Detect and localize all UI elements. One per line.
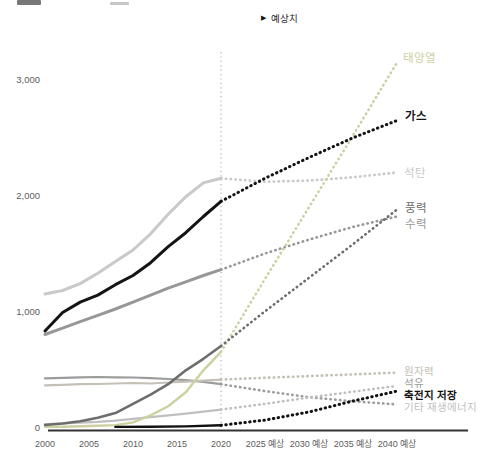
series-line-hydro-historical — [45, 270, 221, 335]
y-tick-label-2000: 2,000 — [16, 190, 40, 201]
series-label-other_renewables: 기타 재생에너지 — [404, 401, 477, 413]
forecast-annotation-label: 예상치 — [271, 11, 299, 25]
series-label-coal: 석탄 — [404, 167, 426, 179]
x-tick-label-2025: 2025 예상 — [246, 439, 285, 449]
series-label-nuclear: 원자력 — [404, 365, 434, 377]
x-tick-label-2020: 2020 — [211, 439, 231, 449]
x-tick-label-2040: 2040 예상 — [378, 439, 417, 449]
y-tick-label-1000: 1,000 — [16, 306, 40, 317]
energy-capacity-line-chart: 01,0002,0003,000200020052010201520202025… — [0, 0, 482, 464]
y-tick-label-0: 0 — [35, 422, 40, 433]
forecast-marker-icon: ▶ — [261, 14, 267, 22]
x-tick-label-2030: 2030 예상 — [290, 439, 329, 449]
series-line-solar-forecast — [221, 63, 397, 352]
chart-canvas: 01,0002,0003,000200020052010201520202025… — [0, 0, 482, 464]
x-tick-label-2010: 2010 — [123, 439, 143, 449]
x-tick-label-2035: 2035 예상 — [334, 439, 373, 449]
series-label-wind: 풍력 — [405, 202, 427, 214]
series-line-hydro-forecast — [221, 217, 397, 270]
x-tick-label-2005: 2005 — [79, 439, 99, 449]
series-line-battery-historical — [115, 425, 221, 427]
series-line-gas-forecast — [221, 121, 397, 202]
series-line-wind-forecast — [221, 210, 397, 347]
series-line-oil-forecast — [221, 384, 397, 404]
series-line-gas-historical — [45, 201, 221, 331]
series-label-oil: 석유 — [404, 377, 424, 389]
series-label-solar: 태양열 — [403, 52, 436, 64]
series-label-battery: 축전지 저장 — [404, 389, 457, 401]
x-tick-label-2000: 2000 — [35, 439, 55, 449]
x-tick-label-2015: 2015 — [167, 439, 187, 449]
series-line-coal-forecast — [221, 173, 397, 182]
series-label-hydro: 수력 — [405, 218, 427, 230]
forecast-annotation: ▶ 예상치 — [261, 11, 298, 25]
y-tick-label-3000: 3,000 — [16, 74, 40, 85]
series-line-battery-forecast — [221, 391, 397, 425]
series-line-nuclear-forecast — [221, 373, 397, 380]
series-label-gas: 가스 — [405, 109, 427, 122]
